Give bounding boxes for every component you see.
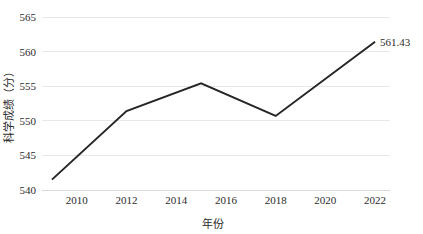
y-axis-title: 科学成绩（分） — [2, 66, 15, 143]
y-tick-label: 550 — [20, 115, 37, 127]
y-tick-label: 545 — [20, 149, 37, 161]
x-axis-tick-labels: 2010201220142016201820202022 — [66, 194, 386, 206]
data-point-labels: 561.43 — [380, 36, 411, 48]
x-axis-title: 年份 — [202, 217, 224, 230]
science-score-line-chart: 540545550555560565 201020122014201620182… — [0, 0, 423, 234]
data-line — [52, 42, 375, 180]
x-tick-label: 2016 — [215, 194, 238, 206]
y-axis-tick-labels: 540545550555560565 — [20, 11, 37, 196]
x-tick-label: 2018 — [265, 194, 288, 206]
y-tick-label: 565 — [20, 11, 37, 23]
gridlines-group — [42, 17, 390, 190]
x-tick-label: 2010 — [66, 194, 89, 206]
y-tick-label: 540 — [20, 184, 37, 196]
x-tick-label: 2012 — [116, 194, 138, 206]
data-series-group — [52, 42, 375, 180]
y-tick-label: 560 — [20, 46, 37, 58]
x-tick-label: 2014 — [165, 194, 188, 206]
x-tick-label: 2022 — [364, 194, 386, 206]
y-tick-label: 555 — [20, 80, 37, 92]
x-tick-label: 2020 — [314, 194, 337, 206]
data-point-value-label: 561.43 — [380, 36, 411, 48]
chart-canvas: 540545550555560565 201020122014201620182… — [0, 0, 423, 234]
